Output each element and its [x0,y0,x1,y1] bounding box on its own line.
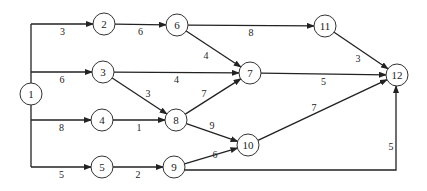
edge-2-to-6 [115,24,166,25]
node-12: 12 [386,64,408,86]
edge-10-to-12 [258,80,387,141]
edge-weight-label: 5 [59,169,64,180]
node-label: 5 [99,161,105,173]
node-5: 5 [91,156,113,178]
edge-weight-label: 4 [204,50,209,61]
edge-weight-label: 2 [136,169,141,180]
edge-weight-label: 3 [146,88,151,99]
edge-weight-label: 6 [213,149,218,160]
node-4: 4 [91,109,113,131]
edge-weight-label: 8 [59,122,64,133]
edge-11-to-12 [334,32,388,69]
node-9: 9 [163,156,185,178]
node-label: 3 [100,66,106,78]
edge-6-to-11 [188,25,314,26]
edge-weight-label: 5 [321,76,326,87]
edge-weight-label: 7 [202,88,207,99]
edge-9-to-10 [185,148,238,164]
edge-8-to-7 [185,79,240,114]
edge-weight-label: 3 [356,53,361,64]
node-label: 7 [247,67,253,79]
node-label: 11 [320,20,331,32]
edge-weight-label: 7 [312,102,317,113]
network-diagram: 368568443179265537 123456789101112 [0,0,427,191]
node-7: 7 [239,62,261,84]
node-label: 10 [243,139,255,151]
node-2: 2 [93,13,115,35]
edges-layer: 368568443179265537 [31,24,396,180]
edge-weight-label: 8 [249,27,254,38]
edge-weight-label: 4 [174,74,179,85]
node-11: 11 [314,15,336,37]
edge-weight-label: 1 [137,122,142,133]
edge-weight-label: 5 [389,141,394,152]
node-1: 1 [20,83,42,105]
node-6: 6 [166,14,188,36]
node-label: 2 [101,18,107,30]
edge-6-to-7 [186,31,241,67]
node-label: 4 [99,114,105,126]
node-label: 12 [392,69,403,81]
node-label: 8 [173,114,179,126]
edge-weight-label: 3 [60,26,65,37]
edge-3-to-7 [114,72,239,73]
node-3: 3 [92,61,114,83]
node-label: 1 [28,88,34,100]
edge-weight-label: 6 [138,26,143,37]
edge-weight-label: 9 [210,120,215,131]
node-label: 6 [174,19,180,31]
edge-3-to-8 [112,78,167,114]
node-8: 8 [165,109,187,131]
edge-weight-label: 6 [60,74,65,85]
node-label: 9 [171,161,177,173]
node-10: 10 [237,134,259,156]
